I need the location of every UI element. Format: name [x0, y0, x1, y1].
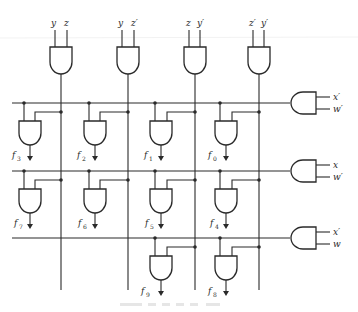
output-sub-f1: 1 — [149, 155, 153, 162]
input-label-zprime: z′ — [130, 18, 138, 28]
decoder-circuit-diagram: y z y z′ z y′ z′ y′ x′ w′ — [0, 0, 358, 312]
top-and-gate-y-zprime: y z′ — [117, 18, 139, 290]
cell-gate-f7: f 7 — [13, 169, 63, 230]
row2-input-label-x: x — [333, 160, 338, 170]
input-label-yprime: y′ — [260, 18, 268, 28]
output-sub-f2: 2 — [82, 155, 86, 162]
cell-gate-f5: f 5 — [144, 169, 197, 230]
cell-gate-f8: f 8 — [207, 236, 261, 298]
cell-gate-f1: f 1 — [143, 101, 197, 162]
input-label-y: y — [50, 18, 57, 28]
input-label-z: z — [63, 18, 69, 28]
top-and-gate-zprime-yprime: z′ y′ — [248, 18, 270, 290]
scan-artifact-line — [0, 37, 358, 38]
top-and-gate-y-z: y z — [50, 18, 72, 290]
cell-gate-f3: f 3 — [11, 101, 63, 162]
cell-gate-f0: f 0 — [207, 101, 261, 162]
output-sub-f7: 7 — [19, 223, 23, 230]
cell-gate-f4: f 4 — [209, 169, 261, 230]
input-label-y: y — [117, 18, 124, 28]
top-and-gate-z-yprime: z y′ — [184, 18, 206, 290]
output-sub-f5: 5 — [150, 223, 154, 230]
output-sub-f4: 4 — [215, 223, 219, 230]
output-sub-f3: 3 — [17, 155, 21, 162]
row3-input-label-w: w — [333, 239, 341, 249]
cell-gate-f6: f 6 — [77, 169, 130, 230]
output-sub-f8: 8 — [213, 291, 217, 298]
row1-input-label-xprime: x′ — [333, 92, 340, 102]
output-sub-f9: 9 — [146, 291, 150, 298]
input-label-yprime: y′ — [196, 18, 204, 28]
row1-input-label-wprime: w′ — [333, 104, 343, 114]
cell-gate-f2: f 2 — [76, 101, 130, 162]
cell-gate-f9: f 9 — [140, 236, 197, 298]
input-label-z: z — [185, 18, 191, 28]
output-sub-f0: 0 — [213, 155, 217, 162]
input-label-zprime: z′ — [248, 18, 256, 28]
row2-input-label-wprime: w′ — [333, 172, 343, 182]
faded-caption — [120, 303, 220, 306]
row3-input-label-xprime: x′ — [333, 227, 340, 237]
output-sub-f6: 6 — [83, 223, 87, 230]
